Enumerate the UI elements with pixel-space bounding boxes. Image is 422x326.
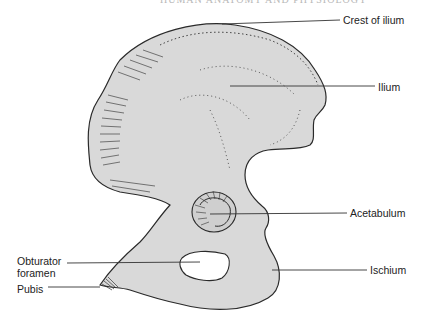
label-ischium: Ischium <box>370 264 406 276</box>
acetabulum <box>192 191 236 232</box>
label-ilium: Ilium <box>378 81 400 93</box>
label-crest-of-ilium: Crest of ilium <box>343 14 404 26</box>
obturator-foramen-hole <box>180 251 229 280</box>
hip-bone-diagram: HUMAN ANATOMY AND PHYSIOLOGY <box>0 0 422 326</box>
label-acetabulum: Acetabulum <box>350 207 405 219</box>
label-obturator-foramen: Obturator foramen <box>17 255 77 279</box>
leader-crest-of-ilium <box>222 20 340 24</box>
label-pubis: Pubis <box>17 283 43 295</box>
running-header: HUMAN ANATOMY AND PHYSIOLOGY <box>160 0 367 5</box>
